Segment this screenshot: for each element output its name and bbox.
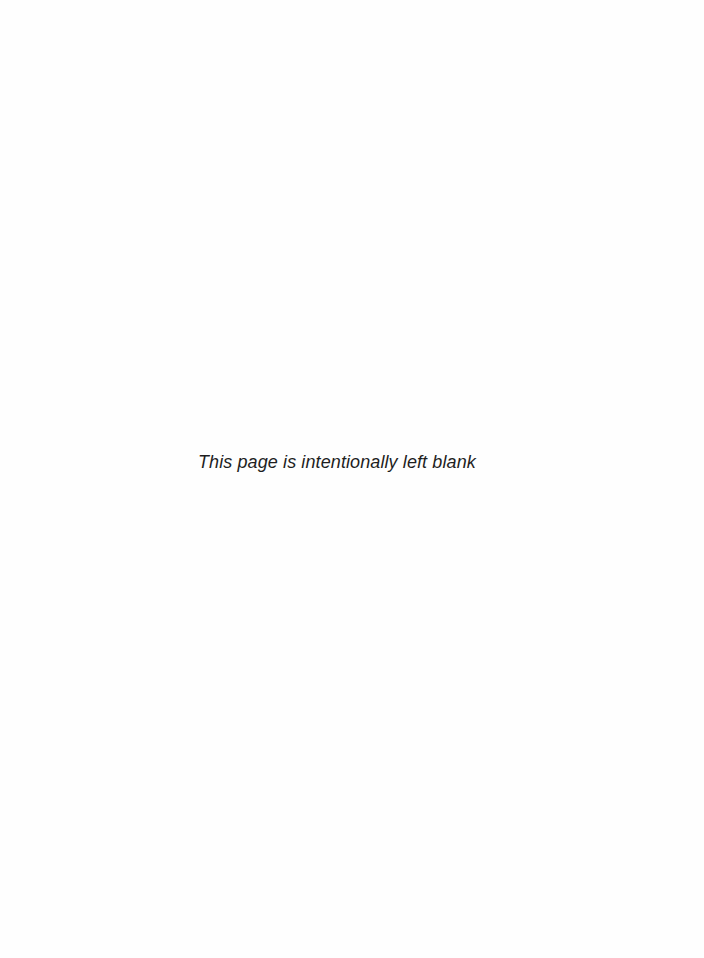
blank-page-notice: This page is intentionally left blank bbox=[198, 452, 476, 473]
document-page: This page is intentionally left blank bbox=[0, 0, 704, 958]
